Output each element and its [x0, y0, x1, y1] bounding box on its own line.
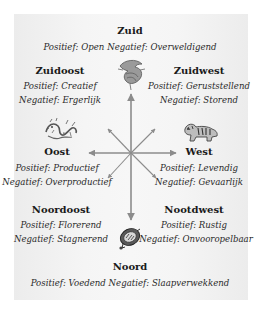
zuidoost-positief: Positief: Creatief [23, 80, 96, 92]
oost-negatief: Negatief: Overproductief [2, 176, 112, 188]
nootdwest-negatief: Negatief: Onvooropelbaar [139, 233, 253, 245]
arrow-down-right [131, 153, 156, 178]
zuidoost-negatief: Negatief: Ergerlijk [19, 94, 101, 106]
oost-positief: Positief: Productief [15, 162, 98, 174]
noordoost-positief: Positief: Florerend [20, 219, 101, 231]
arrow-down-left [108, 153, 131, 178]
noord-title: Noord [113, 261, 148, 273]
noordoost-negatief: Negatief: Stagnerend [14, 233, 108, 245]
zuidwest-title: Zuidwest [174, 65, 225, 77]
oost-title: Oost [44, 146, 70, 158]
arrow-up-right [131, 129, 155, 153]
noord-line: Positief: Voedend Negatief: Slaapverwekk… [31, 277, 230, 289]
west-negatief: Negatief: Gevaarlijk [155, 176, 243, 188]
zuidoost-title: Zuidoost [36, 65, 85, 77]
west-positief: Positief: Levendig [160, 162, 238, 174]
noordoost-title: Noordoost [32, 204, 90, 216]
arrow-up-left [108, 129, 131, 153]
zuidwest-negatief: Negatief: Storend [160, 94, 238, 106]
nootdwest-positief: Positief: Rustig [161, 219, 227, 231]
turtle-icon [117, 226, 143, 252]
zuid-line: Positief: Open Negatief: Overweldigend [43, 41, 216, 53]
zuid-title: Zuid [117, 25, 142, 37]
phoenix-icon [116, 56, 146, 92]
dragon-icon [44, 118, 78, 142]
tiger-icon [182, 120, 220, 142]
zuidwest-positief: Positief: Geruststellend [148, 80, 250, 92]
nootdwest-title: Nootdwest [164, 204, 223, 216]
west-title: West [185, 146, 212, 158]
